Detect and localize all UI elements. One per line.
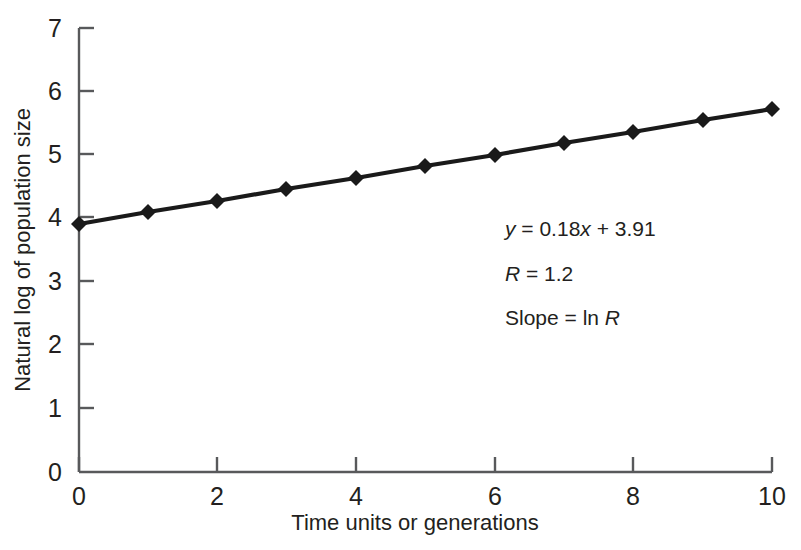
chart-background	[0, 0, 801, 550]
y-tick-label-2: 2	[48, 330, 62, 358]
y-axis-title: Natural log of population size	[10, 108, 35, 392]
x-tick-label-4: 4	[349, 482, 363, 510]
equation-part-2: + 3.91	[591, 217, 656, 240]
chart-figure: 7 6 5 4 3 2 1 0 0 2 4 6 8 10	[0, 0, 801, 550]
line-chart: 7 6 5 4 3 2 1 0 0 2 4 6 8 10	[0, 0, 801, 550]
y-tick-label-6: 6	[48, 77, 62, 105]
x-tick-label-8: 8	[626, 482, 640, 510]
equation-part-1: = 0.18	[516, 217, 581, 240]
annotation-growth-rate: R = 1.2	[505, 262, 573, 285]
growth-rate-value: = 1.2	[520, 262, 573, 285]
y-tick-label-1: 1	[48, 394, 62, 422]
y-tick-label-3: 3	[48, 267, 62, 295]
y-tick-label-5: 5	[48, 140, 62, 168]
slope-prefix: Slope = ln	[505, 306, 605, 329]
x-axis-title: Time units or generations	[291, 510, 538, 535]
slope-var-r: R	[605, 306, 620, 329]
x-tick-label-0: 0	[72, 482, 86, 510]
x-tick-label-6: 6	[488, 482, 502, 510]
y-tick-label-0: 0	[48, 458, 62, 486]
growth-rate-var-r: R	[505, 262, 520, 285]
x-tick-label-10: 10	[758, 482, 786, 510]
y-tick-label-4: 4	[48, 203, 62, 231]
annotation-slope: Slope = ln R	[505, 306, 620, 329]
annotation-equation: y = 0.18x + 3.91	[503, 217, 656, 240]
x-tick-label-2: 2	[210, 482, 224, 510]
y-tick-label-7: 7	[48, 14, 62, 42]
